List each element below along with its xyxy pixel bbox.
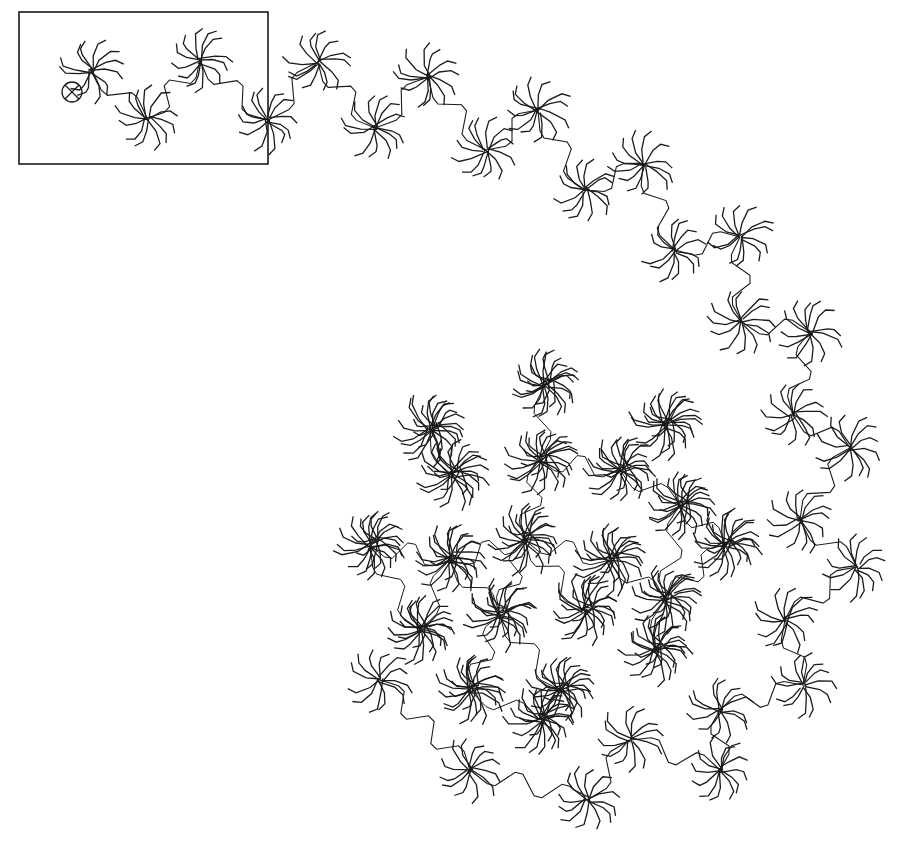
helix-chain (59, 28, 885, 829)
superhelix-diagram (0, 0, 903, 846)
coiled-core (333, 349, 762, 755)
origin-marker-icon (62, 82, 82, 102)
